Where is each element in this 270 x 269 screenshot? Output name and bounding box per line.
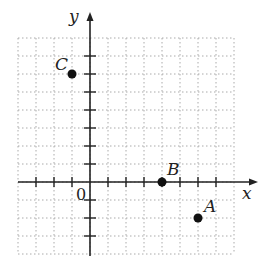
y-axis-label: y [68, 6, 79, 26]
point-a [194, 214, 203, 223]
y-arrow-icon [87, 12, 94, 21]
x-axis-label: x [242, 183, 252, 203]
point-b [158, 178, 167, 187]
point-label-c: C [55, 54, 68, 74]
point-label-a: A [202, 196, 216, 216]
coordinate-plane: ABC y x 0 [0, 0, 270, 269]
point-label-b: B [166, 159, 180, 179]
point-c [68, 70, 77, 79]
grid [18, 38, 234, 254]
origin-label: 0 [76, 185, 86, 204]
